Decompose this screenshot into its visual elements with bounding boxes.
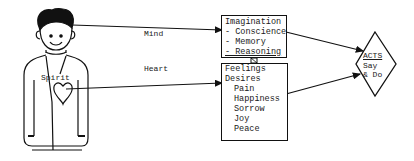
mind-box-item: - Reasoning	[225, 47, 286, 57]
mind-box-title: Imagination	[225, 17, 286, 27]
heart-arrow	[66, 83, 222, 89]
mind-label: Mind	[144, 29, 163, 38]
acts-title: ACTS	[363, 51, 382, 61]
acts-line2: & Do	[363, 70, 382, 80]
mind-box-item: - Conscience	[225, 27, 286, 37]
mind-to-acts-arrow	[286, 32, 363, 51]
mind-box: Imagination - Conscience - Memory - Reas…	[221, 15, 287, 58]
heart-box-item: Feelings	[225, 64, 287, 74]
heart-box-subitem: Joy	[225, 114, 287, 124]
heart-box-item: Desires	[225, 74, 287, 84]
heart-icon	[54, 83, 72, 104]
acts-line1: Say	[363, 61, 382, 71]
heart-label: Heart	[144, 64, 168, 73]
mind-box-item: - Memory	[225, 37, 286, 47]
heart-to-acts-arrow	[286, 74, 360, 94]
heart-box-subitem: Sorrow	[225, 104, 287, 114]
heart-box-subitem: Pain	[225, 84, 287, 94]
spirit-label: Spirit	[41, 73, 70, 82]
heart-box-subitem: Happiness	[225, 94, 287, 104]
acts-text: ACTS Say & Do	[363, 51, 382, 80]
heart-box-subitem: Peace	[225, 124, 287, 134]
diagram-canvas: Spirit Mind Heart Imagination - Conscien…	[0, 0, 414, 161]
heart-box: Feelings Desires Pain Happiness Sorrow J…	[221, 63, 288, 141]
